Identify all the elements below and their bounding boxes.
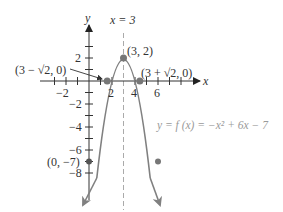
left-root-label: (3 − √2, 0) <box>15 64 66 76</box>
tick-label-x-4: 4 <box>131 87 137 99</box>
tick-label-y-neg8: −8 <box>69 167 82 179</box>
tick-label-y-neg4: −4 <box>69 121 82 133</box>
y-intercept-point <box>86 159 92 165</box>
tick-label-y-neg2: −2 <box>69 98 82 110</box>
x-axis-label: x <box>203 75 208 87</box>
y-axis-label: y <box>85 12 90 24</box>
right-root-label: (3 + √2, 0) <box>141 67 192 79</box>
tick-label-y-neg6: −6 <box>69 144 82 156</box>
left-root-point <box>104 78 111 85</box>
tick-label-x-neg2: −2 <box>56 87 69 99</box>
tick-label-y-2: 2 <box>75 52 81 64</box>
symmetry-label: x = 3 <box>110 14 135 26</box>
vertex-point <box>120 55 127 62</box>
tick-label-x-6: 6 <box>154 87 160 99</box>
left-root-pointer <box>70 69 102 79</box>
tick-label-x-2: 2 <box>108 87 114 99</box>
parabola-plot <box>0 0 283 212</box>
vertex-label: (3, 2) <box>127 45 153 57</box>
mirror-point <box>155 159 161 165</box>
equation-label: y = f (x) = −x² + 6x − 7 <box>157 120 268 132</box>
